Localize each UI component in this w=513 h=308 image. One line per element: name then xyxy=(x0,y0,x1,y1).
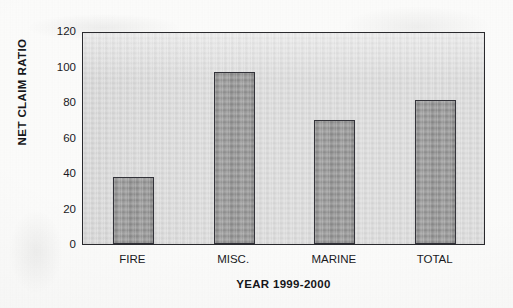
x-axis-tick-labels: FIREMISC.MARINETOTAL xyxy=(82,253,485,273)
bars-layer xyxy=(83,33,484,244)
y-tick-label: 0 xyxy=(40,239,76,251)
plot-area xyxy=(82,32,485,245)
bar-total xyxy=(415,100,456,244)
y-tick-label: 60 xyxy=(40,133,76,145)
chart-screenshot: NET CLAIM RATIO 020406080100120 FIREMISC… xyxy=(0,0,513,308)
y-axis-title: NET CLAIM RATIO xyxy=(16,7,28,177)
bar-scan-texture xyxy=(114,178,153,243)
y-tick-label: 80 xyxy=(40,97,76,109)
x-axis-title: YEAR 1999-2000 xyxy=(82,278,485,290)
bar-scan-texture xyxy=(416,101,455,243)
bar-fire xyxy=(113,177,154,244)
bar-scan-texture xyxy=(215,73,254,243)
y-axis-tick-labels: 020406080100120 xyxy=(40,0,76,308)
x-tick-label: MARINE xyxy=(312,253,357,265)
bar-misc xyxy=(214,72,255,244)
bar-chart-figure: NET CLAIM RATIO 020406080100120 FIREMISC… xyxy=(0,0,513,308)
y-tick-label: 20 xyxy=(40,204,76,216)
bar-marine xyxy=(314,120,355,244)
y-tick-label: 40 xyxy=(40,168,76,180)
x-tick-label: FIRE xyxy=(119,253,145,265)
y-tick-label: 120 xyxy=(40,26,76,38)
y-tick-label: 100 xyxy=(40,62,76,74)
x-tick-label: TOTAL xyxy=(417,253,453,265)
bar-scan-texture xyxy=(315,121,354,243)
x-tick-label: MISC. xyxy=(217,253,249,265)
